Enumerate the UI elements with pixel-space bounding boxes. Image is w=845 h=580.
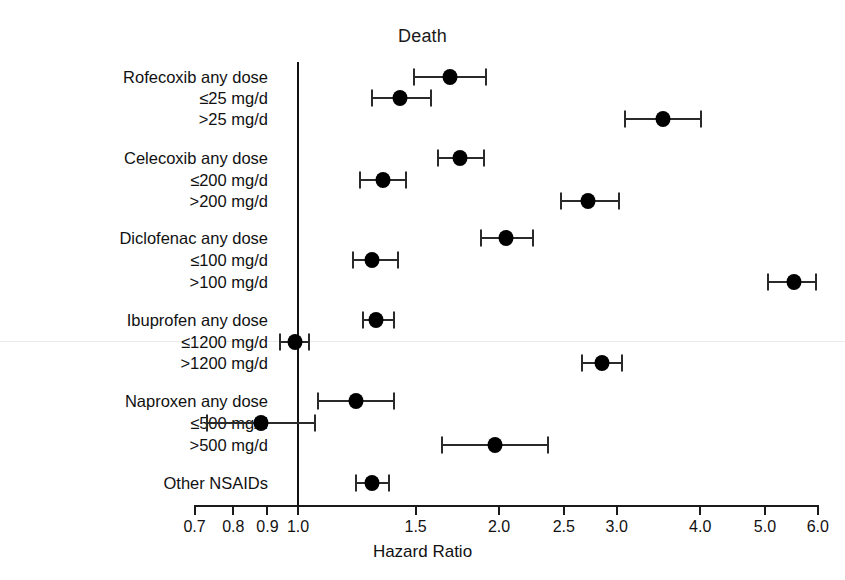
confidence-interval-cap — [621, 355, 623, 372]
confidence-interval-cap — [430, 90, 432, 107]
confidence-interval-cap — [618, 193, 620, 210]
point-estimate-marker — [288, 334, 303, 350]
x-axis-title: Hazard Ratio — [0, 542, 845, 562]
confidence-interval-cap — [393, 312, 395, 329]
x-tick-label: 0.9 — [256, 518, 278, 536]
x-tick-label: 5.0 — [754, 518, 776, 536]
confidence-interval-cap — [547, 437, 549, 454]
point-estimate-marker — [369, 312, 384, 328]
confidence-interval-cap — [279, 334, 281, 351]
confidence-interval-cap — [352, 252, 354, 269]
x-tick — [415, 507, 417, 515]
point-estimate-marker — [375, 172, 390, 188]
confidence-interval-cap — [485, 69, 487, 86]
x-tick — [194, 507, 196, 515]
confidence-interval-cap — [359, 172, 361, 189]
x-tick-label: 2.0 — [488, 518, 510, 536]
confidence-interval-cap — [483, 150, 485, 167]
x-tick-label: 1.0 — [287, 518, 309, 536]
x-tick — [817, 507, 819, 515]
null-reference-line — [297, 62, 299, 505]
x-tick-label: 1.5 — [405, 518, 427, 536]
confidence-interval-cap — [581, 355, 583, 372]
confidence-interval-cap — [308, 334, 310, 351]
point-estimate-marker — [364, 252, 379, 268]
point-estimate-marker — [487, 437, 502, 453]
x-tick-label: 4.0 — [689, 518, 711, 536]
x-tick — [498, 507, 500, 515]
point-estimate-marker — [443, 69, 458, 85]
x-tick-label: 3.0 — [606, 518, 628, 536]
x-tick — [563, 507, 565, 515]
x-tick — [764, 507, 766, 515]
x-tick-label: 6.0 — [807, 518, 829, 536]
confidence-interval-cap — [437, 150, 439, 167]
confidence-interval-cap — [388, 475, 390, 492]
x-tick-label: 0.8 — [222, 518, 244, 536]
confidence-interval-cap — [362, 312, 364, 329]
point-estimate-marker — [364, 475, 379, 491]
confidence-interval-cap — [532, 230, 534, 247]
point-estimate-marker — [656, 111, 671, 127]
point-estimate-marker — [392, 90, 407, 106]
point-estimate-marker — [499, 230, 514, 246]
confidence-interval-cap — [441, 437, 443, 454]
confidence-interval-cap — [700, 111, 702, 128]
x-tick — [266, 507, 268, 515]
confidence-interval-cap — [767, 274, 769, 291]
confidence-interval-cap — [206, 415, 208, 432]
confidence-interval-cap — [393, 393, 395, 410]
confidence-interval-cap — [624, 111, 626, 128]
point-estimate-marker — [348, 393, 363, 409]
x-tick-label: 2.5 — [553, 518, 575, 536]
x-axis-line — [194, 505, 819, 507]
x-tick — [232, 507, 234, 515]
confidence-interval-cap — [405, 172, 407, 189]
x-tick — [699, 507, 701, 515]
point-estimate-marker — [594, 355, 609, 371]
confidence-interval-cap — [397, 252, 399, 269]
forest-plot-figure: Death Rofecoxib any dose≤25 mg/d>25 mg/d… — [0, 0, 845, 580]
confidence-interval-cap — [560, 193, 562, 210]
x-tick-label: 0.7 — [183, 518, 205, 536]
point-estimate-marker — [787, 274, 802, 290]
confidence-interval-cap — [413, 69, 415, 86]
point-estimate-marker — [253, 415, 268, 431]
confidence-interval-cap — [317, 393, 319, 410]
point-estimate-marker — [453, 150, 468, 166]
confidence-interval-cap — [314, 415, 316, 432]
confidence-interval-cap — [355, 475, 357, 492]
confidence-interval-cap — [815, 274, 817, 291]
x-tick — [297, 507, 299, 515]
confidence-interval-cap — [371, 90, 373, 107]
confidence-interval-cap — [480, 230, 482, 247]
point-estimate-marker — [581, 193, 596, 209]
plot-area: 0.70.80.91.01.52.02.53.04.05.06.0 — [0, 0, 845, 580]
x-tick — [616, 507, 618, 515]
